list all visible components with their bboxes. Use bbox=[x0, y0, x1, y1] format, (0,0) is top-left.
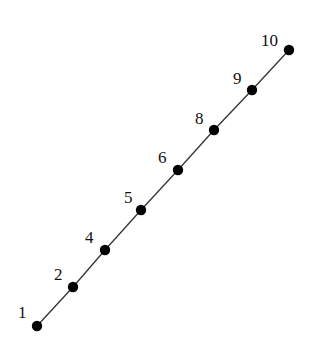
edge bbox=[252, 50, 289, 90]
edge bbox=[105, 210, 141, 250]
edge bbox=[141, 170, 178, 210]
node-5 bbox=[136, 205, 146, 215]
node-label-8: 8 bbox=[195, 109, 204, 128]
node-4 bbox=[100, 245, 110, 255]
node-label-2: 2 bbox=[54, 265, 63, 284]
edge bbox=[178, 130, 214, 170]
node-6 bbox=[173, 165, 183, 175]
node-label-1: 1 bbox=[18, 303, 27, 322]
node-label-10: 10 bbox=[261, 31, 278, 50]
edge bbox=[37, 287, 73, 326]
node-2 bbox=[68, 282, 78, 292]
node-8 bbox=[209, 125, 219, 135]
path-graph-diagram: 124568910 bbox=[0, 0, 310, 355]
edge bbox=[73, 250, 105, 287]
nodes bbox=[32, 45, 294, 331]
edge bbox=[214, 90, 252, 130]
node-label-4: 4 bbox=[85, 228, 94, 247]
node-labels: 124568910 bbox=[18, 31, 278, 322]
node-label-5: 5 bbox=[124, 188, 133, 207]
node-label-6: 6 bbox=[158, 148, 167, 167]
node-1 bbox=[32, 321, 42, 331]
node-9 bbox=[247, 85, 257, 95]
node-10 bbox=[284, 45, 294, 55]
node-label-9: 9 bbox=[233, 69, 242, 88]
